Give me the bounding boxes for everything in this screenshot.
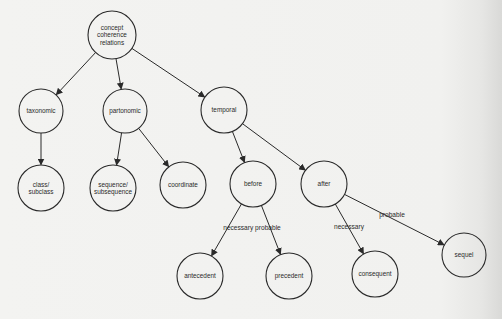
node-label: precedent [275, 272, 304, 280]
edge-label: necessary [334, 223, 365, 231]
arrow-icon [132, 48, 205, 97]
edge-labels-layer: necessary probablenecessaryprobable [223, 211, 405, 232]
node-label: subclass [29, 188, 54, 195]
node-sequence-subsequence: sequence/subsequence [90, 165, 136, 211]
node-label: coherence [97, 31, 127, 38]
node-label: subsequence [94, 188, 132, 196]
node-label: relations [100, 39, 124, 46]
edge-temporal-to-before [232, 131, 244, 162]
arrow-icon [139, 128, 169, 166]
node-sequel: sequel [442, 233, 486, 277]
edge-partonomic-to-coordinate [139, 128, 169, 166]
concept-coherence-tree: conceptcoherencerelationstaxonomicparton… [0, 0, 502, 319]
diagram-canvas: conceptcoherencerelationstaxonomicparton… [0, 0, 502, 319]
edge-root-to-taxonomic [56, 53, 95, 95]
node-label: sequel [455, 251, 474, 259]
arrow-icon [345, 194, 444, 244]
node-label: class/ [33, 181, 50, 188]
node-class-subclass: class/subclass [18, 165, 64, 211]
node-antecedent: antecedent [177, 253, 223, 299]
edge-root-to-temporal [132, 48, 205, 97]
node-label: partonomic [109, 107, 141, 115]
node-temporal: temporal [201, 87, 247, 133]
node-label: taxonomic [26, 107, 56, 114]
node-label: antecedent [184, 272, 216, 279]
node-coordinate: coordinate [160, 162, 206, 208]
arrow-icon [243, 124, 306, 170]
node-precedent: precedent [266, 253, 312, 299]
arrow-icon [117, 133, 122, 165]
node-consequent: consequent [352, 251, 398, 297]
node-label: consequent [358, 270, 391, 278]
node-root: conceptcoherencerelations [88, 11, 136, 59]
arrow-icon [232, 131, 244, 162]
edge-temporal-to-after [243, 124, 306, 170]
arrow-icon [56, 53, 95, 95]
node-before: before [230, 161, 276, 207]
edge-root-to-partonomic [116, 59, 121, 89]
node-taxonomic: taxonomic [19, 89, 63, 133]
edge-partonomic-to-sequence-subsequence [117, 133, 122, 165]
nodes-layer: conceptcoherencerelationstaxonomicparton… [18, 11, 486, 299]
node-label: before [244, 180, 263, 187]
arrow-icon [116, 59, 121, 89]
edge-label: probable [379, 211, 405, 219]
node-after: after [301, 161, 347, 207]
edge-label: necessary probable [223, 224, 281, 232]
node-label: temporal [212, 106, 237, 114]
edge-after-to-sequel [345, 194, 444, 244]
node-label: coordinate [168, 181, 198, 188]
node-partonomic: partonomic [103, 89, 147, 133]
node-label: after [318, 180, 332, 187]
